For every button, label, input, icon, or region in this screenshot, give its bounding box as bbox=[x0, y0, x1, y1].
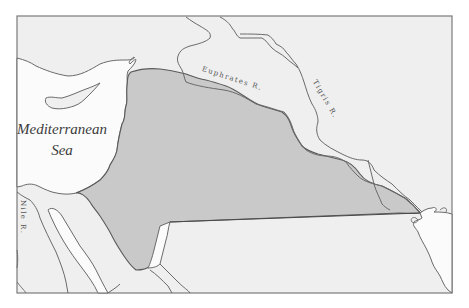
nile-river-label: Nile R. bbox=[19, 200, 26, 234]
mediterranean-sea-label: Mediterranean Sea bbox=[14, 122, 110, 158]
sea-label-line2: Sea bbox=[14, 143, 110, 158]
sea-label-line1: Mediterranean bbox=[14, 122, 110, 137]
map-container: Mediterranean Sea Euphrates R. Tigris R.… bbox=[0, 0, 469, 308]
